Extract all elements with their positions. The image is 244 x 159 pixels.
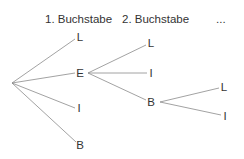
edge-B-L xyxy=(160,88,219,102)
node-l3-I: I xyxy=(223,110,226,122)
edge-root-B xyxy=(12,83,76,142)
node-l2-I: I xyxy=(149,67,152,79)
header-more: ... xyxy=(216,12,226,26)
node-l1-B: B xyxy=(76,139,84,151)
edge-E-B xyxy=(88,73,146,100)
edge-B-I xyxy=(160,102,221,115)
node-l1-I: I xyxy=(77,102,80,114)
edge-root-L xyxy=(12,39,75,83)
node-l2-B: B xyxy=(147,96,155,108)
edge-root-E xyxy=(12,73,75,83)
node-l1-L: L xyxy=(77,31,83,43)
header-level2: 2. Buchstabe xyxy=(122,12,189,26)
node-l2-L: L xyxy=(148,37,154,49)
edge-E-L xyxy=(88,45,146,73)
edge-root-I xyxy=(12,83,75,108)
node-l3-L: L xyxy=(221,81,227,93)
node-l1-E: E xyxy=(76,67,84,79)
header-level1: 1. Buchstabe xyxy=(45,12,112,26)
letter-tree-diagram: 1. Buchstabe 2. Buchstabe ... L E I B L … xyxy=(0,0,244,159)
